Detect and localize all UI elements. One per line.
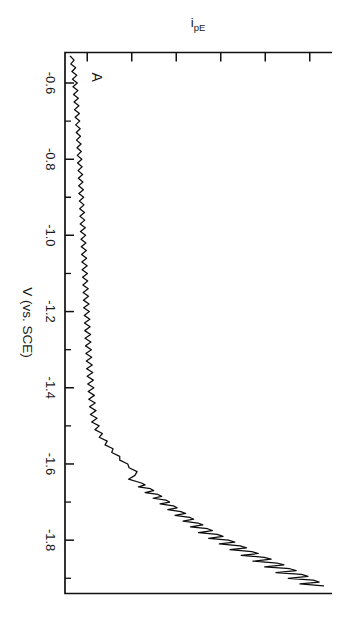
x-tick-label: -0.8	[43, 147, 58, 169]
figure-page: { "figure": { "panel_label": "A", "rotat…	[0, 0, 350, 643]
panel-label-a: A	[89, 72, 105, 82]
x-tick-label: -1.2	[43, 300, 58, 322]
figure-rotator: -0.6-0.8-1.0-1.2-1.4-1.6-1.8 V (vs. SCE)…	[0, 0, 350, 643]
x-tick-label: -1.6	[43, 452, 58, 474]
voltammogram-chart: -0.6-0.8-1.0-1.2-1.4-1.6-1.8 V (vs. SCE)…	[0, 0, 350, 643]
x-tick-label: -1.8	[43, 528, 58, 550]
x-tick-label: -1.0	[43, 224, 58, 246]
y-axis-subscript: pE	[194, 21, 206, 32]
x-axis-title: V (vs. SCE)	[20, 287, 35, 358]
x-tick-label: -1.4	[43, 376, 58, 398]
x-tick-label: -0.6	[43, 71, 58, 93]
